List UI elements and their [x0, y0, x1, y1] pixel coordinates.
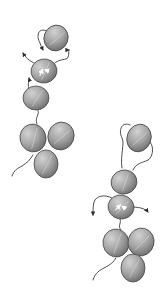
- top-domain: [123, 121, 155, 156]
- trefoil-domain-2: [44, 118, 78, 153]
- diagram-canvas: [0, 0, 165, 303]
- domain-ellipse: [40, 22, 71, 55]
- arrow-linker-icon: [23, 53, 36, 64]
- tail-linker: [12, 155, 33, 176]
- middle-domain: [108, 167, 139, 197]
- trefoil-domain-3: [121, 254, 145, 282]
- domain-ellipse: [44, 118, 78, 153]
- domain-ellipse: [108, 167, 139, 197]
- trefoil-domain-3: [34, 150, 58, 178]
- domain-ellipse: [34, 150, 58, 178]
- linker: [36, 110, 38, 124]
- domain-diagram-svg: [0, 0, 165, 303]
- tail-linker: [93, 258, 116, 280]
- lower-domain: [23, 86, 49, 110]
- domains-layer: [17, 22, 157, 282]
- domain-ellipse: [125, 225, 157, 259]
- domain-ellipse: [29, 57, 59, 85]
- domain-ellipse: [121, 254, 145, 282]
- domain-ellipse: [23, 86, 49, 110]
- trefoil-domain-2: [125, 225, 157, 259]
- trefoil-domain-1: [101, 227, 131, 259]
- left-assembly: [17, 22, 78, 178]
- domain-ellipse: [123, 121, 155, 156]
- top-domain: [40, 22, 71, 55]
- right-assembly: [101, 121, 157, 282]
- domain-ellipse: [101, 227, 131, 259]
- middle-domain: [29, 57, 59, 85]
- linker: [119, 219, 121, 230]
